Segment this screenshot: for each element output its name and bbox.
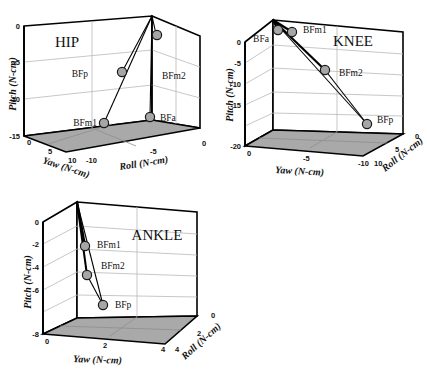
- ankle-label-bfm1: BFm1: [97, 240, 121, 250]
- hip-label-bfm1: BFm1: [73, 118, 97, 128]
- knee-pitch-tick-4: -20: [230, 142, 241, 151]
- ankle-pitch-tick-1: -2: [32, 240, 39, 249]
- ankle-pitch-tick-0: 0: [35, 218, 39, 227]
- hip-roll-axis-label: Roll (N-cm): [118, 153, 169, 173]
- ankle-marker-bfm1[interactable]: [80, 241, 89, 250]
- ankle-yaw-tick-1: 2: [103, 341, 107, 350]
- knee-yaw-tick-2: -10: [358, 159, 369, 168]
- ankle-title: ANKLE: [132, 227, 183, 243]
- knee-yaw-tick-0: 0: [247, 149, 251, 158]
- hip-roll-tick-0: -10: [86, 156, 97, 165]
- knee-label-bfm1: BFm1: [303, 25, 327, 35]
- ankle-yaw-axis-label: Yaw (N-cm): [73, 353, 122, 367]
- hip-marker-bfm2[interactable]: [152, 30, 161, 39]
- hip-pitch-tick-0: 0: [16, 22, 20, 31]
- knee-marker-bfm2[interactable]: [320, 65, 329, 74]
- ankle-left-wall: [43, 202, 77, 334]
- knee-label-bfa: BFa: [253, 34, 270, 44]
- ankle-pitch-axis-label: Pitch (N-cm): [22, 255, 34, 309]
- ankle-marker-bfp[interactable]: [98, 300, 107, 309]
- knee-label-bfm2: BFm2: [339, 68, 363, 78]
- hip-marker-bfp[interactable]: [117, 67, 126, 76]
- knee-yaw-tick-1: -5: [303, 154, 310, 163]
- knee-pitch-axis-label: Pitch (N-cm): [224, 68, 236, 122]
- ankle-yaw-tick-0: 0: [45, 337, 49, 346]
- knee-title: KNEE: [333, 33, 373, 49]
- plot-panel-knee: KNEE BFa BFm1 BFm2 BFp 0 -5 -10 -15 -20 …: [215, 0, 427, 190]
- knee-yaw-axis-label: Yaw (N-cm): [275, 164, 324, 179]
- knee-marker-bfa[interactable]: [273, 25, 282, 34]
- ankle-roll-tick-2: 0: [211, 311, 215, 320]
- hip-pitch-tick-3: -15: [9, 132, 20, 141]
- ankle-label-bfp: BFp: [115, 300, 132, 310]
- hip-roll-tick-2: 0: [202, 139, 206, 148]
- plot-panel-ankle: ANKLE BFm1 BFm2 BFp 0 -2 -4 -6 -8 Pitch …: [25, 190, 245, 379]
- hip-yaw-tick-1: 5: [48, 147, 52, 156]
- hip-yaw-axis-label: Yaw (N-cm): [41, 154, 91, 180]
- hip-label-bfm2: BFm2: [162, 71, 186, 81]
- ankle-pitch-tick-3: -6: [32, 286, 39, 295]
- knee-label-bfp: BFp: [377, 115, 394, 125]
- ankle-pitch-tick-2: -4: [32, 263, 39, 272]
- hip-yaw-tick-0: 0: [27, 138, 31, 147]
- knee-pitch-tick-0: 0: [237, 38, 241, 47]
- hip-label-bfa: BFa: [160, 113, 177, 123]
- plot-panel-hip: HIP BFp BFm2 BFm1 BFa 0 -5 -10 -15 Pitch…: [0, 0, 220, 190]
- knee-pitch-tick-1: -5: [234, 59, 241, 68]
- hip-label-bfp: BFp: [72, 69, 89, 79]
- ankle-marker-bfm2[interactable]: [82, 270, 91, 279]
- hip-marker-bfa[interactable]: [145, 112, 154, 121]
- ankle-label-bfm2: BFm2: [101, 261, 125, 271]
- ankle-yaw-tick-2: 4: [161, 345, 166, 354]
- ankle-pitch-tick-4: -8: [32, 330, 39, 339]
- knee-marker-bfp[interactable]: [362, 119, 371, 128]
- knee-marker-bfm1[interactable]: [287, 27, 296, 36]
- hip-title: HIP: [55, 34, 79, 50]
- hip-pitch-axis-label: Pitch (N-cm): [7, 57, 19, 111]
- hip-marker-bfm1[interactable]: [99, 118, 108, 127]
